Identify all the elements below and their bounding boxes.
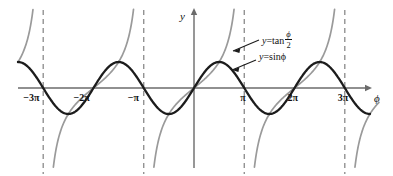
x-tick-label: −2π <box>73 92 89 103</box>
sin-curve-label: y=sinϕ <box>259 52 286 62</box>
x-tick-label: π <box>240 92 245 103</box>
tan-label-leader-line <box>233 40 259 51</box>
sin-label-arg: ϕ <box>281 51 286 62</box>
tan-label-fn: tan <box>272 35 284 46</box>
plot-canvas <box>0 0 393 176</box>
tan-curve-path <box>19 10 33 62</box>
y-axis-arrowhead <box>191 8 197 15</box>
x-tick-label: 2π <box>288 92 298 103</box>
tan-label-fraction: ϕ2 <box>285 30 291 49</box>
tan-label-numerator: ϕ <box>285 30 291 39</box>
x-axis-arrowhead <box>365 85 372 91</box>
sin-label-fn: sin <box>269 51 281 62</box>
x-tick-label: 3π <box>338 92 348 103</box>
x-tick-label: −3π <box>23 92 39 103</box>
x-axis-label: ϕ <box>374 92 380 104</box>
tan-label-denominator: 2 <box>285 41 291 50</box>
math-figure: −3π−2π−ππ2π3π y ϕ y=tanϕ2 y=sinϕ <box>0 0 393 176</box>
annotation-leader-group <box>232 40 259 72</box>
y-axis-label: y <box>180 10 185 22</box>
x-tick-label: −π <box>128 92 139 103</box>
tan-curve-label: y=tanϕ2 <box>262 30 292 49</box>
tan-curve-path <box>355 102 379 167</box>
